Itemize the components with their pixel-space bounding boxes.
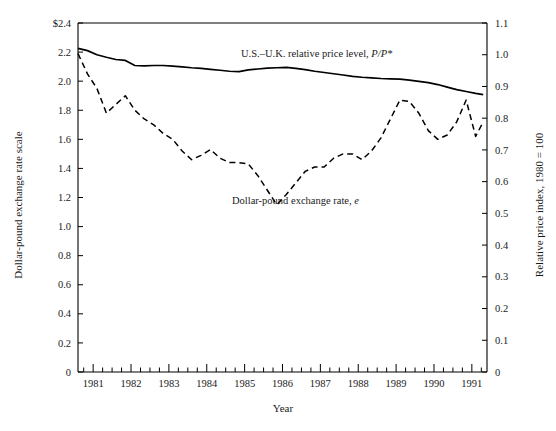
annotation-exchange-rate-symbol: e (354, 195, 359, 206)
annotation-relative-price-level-symbol: P/P* (370, 48, 393, 59)
left-tick-label: 2.0 (58, 76, 71, 87)
right-tick-label: 0 (495, 367, 500, 378)
left-tick-label: 0.8 (58, 250, 71, 261)
left-tick-label: $2.4 (53, 18, 72, 29)
right-axis-title: Relative price index, 1980 = 100 (533, 132, 545, 277)
right-tick-label: 0.8 (495, 113, 508, 124)
x-tick-label: 1987 (310, 378, 331, 389)
left-tick-label: 0.2 (58, 338, 71, 349)
exchange-rate-chart: 00.20.40.60.81.01.21.41.61.82.02.2$2.4 0… (0, 0, 556, 431)
right-tick-label: 0.2 (495, 303, 508, 314)
right-tick-label: 0.7 (495, 145, 508, 156)
figure-container: 00.20.40.60.81.01.21.41.61.82.02.2$2.4 0… (0, 0, 556, 431)
left-tick-label: 0.6 (58, 279, 71, 290)
right-tick-label: 0.6 (495, 176, 508, 187)
left-tick-label: 1.6 (58, 134, 71, 145)
x-tick-label: 1985 (234, 378, 255, 389)
left-axis-title: Dollar-pound exchange rate scale (12, 131, 24, 278)
x-tick-label: 1981 (83, 378, 104, 389)
annotation-relative-price-level: U.S.–U.K. relative price level, P/P* (241, 48, 393, 59)
right-tick-label: 0.3 (495, 271, 508, 282)
right-tick-label: 0.4 (495, 240, 509, 251)
left-tick-label: 1.2 (58, 192, 71, 203)
x-axis-title: Year (273, 402, 294, 414)
left-tick-label: 1.8 (58, 105, 71, 116)
left-tick-label: 1.4 (58, 163, 72, 174)
x-tick-label: 1983 (158, 378, 179, 389)
right-tick-label: 1.0 (495, 49, 508, 60)
x-tick-label: 1982 (121, 378, 142, 389)
x-tick-label: 1990 (423, 378, 444, 389)
annotation-exchange-rate: Dollar-pound exchange rate, e (232, 195, 359, 206)
annotation-exchange-rate-text: Dollar-pound exchange rate, (232, 195, 354, 206)
right-tick-label: 0.5 (495, 208, 508, 219)
left-tick-label: 0.4 (58, 308, 72, 319)
left-tick-label: 1.0 (58, 221, 71, 232)
left-tick-label: 2.2 (58, 47, 71, 58)
x-tick-label: 1984 (196, 378, 218, 389)
annotation-relative-price-level-text: U.S.–U.K. relative price level, (241, 48, 371, 59)
x-tick-label: 1988 (348, 378, 369, 389)
right-tick-label: 0.9 (495, 81, 508, 92)
right-tick-label: 0.1 (495, 335, 508, 346)
left-tick-label: 0 (66, 367, 71, 378)
x-tick-label: 1991 (461, 378, 482, 389)
x-tick-label: 1986 (272, 378, 293, 389)
right-tick-label: 1.1 (495, 18, 508, 29)
x-tick-label: 1989 (386, 378, 407, 389)
